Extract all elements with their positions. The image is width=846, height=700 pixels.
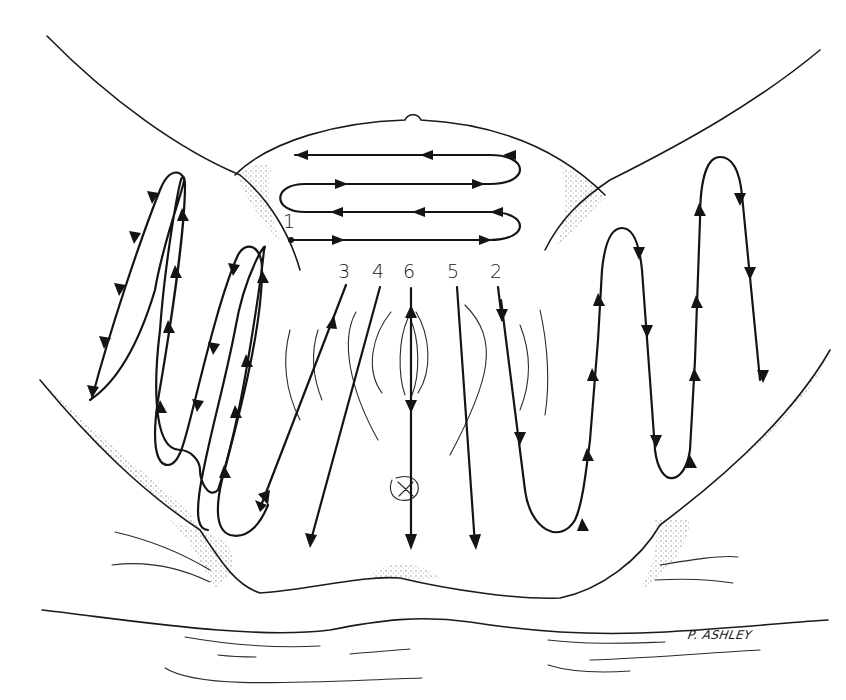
sheet-line-2 <box>185 637 320 647</box>
right-thigh-arrows <box>496 193 769 531</box>
label-2: 2 <box>490 262 502 281</box>
left-thigh-serpentine <box>90 177 265 530</box>
stroke-4-arrowhead <box>305 533 317 548</box>
labia-outer-left <box>372 312 391 393</box>
diagram-canvas <box>0 0 846 700</box>
labia-inner-left <box>400 318 408 395</box>
stroke-3-arrowhead <box>326 315 337 329</box>
label-4: 4 <box>372 262 384 281</box>
fold-line-right-2 <box>540 310 548 415</box>
left-buttock-outline <box>40 350 830 598</box>
label-6: 6 <box>403 262 415 281</box>
sheet-line-7 <box>590 650 760 660</box>
fold-line-right-1 <box>520 325 528 410</box>
mound-stipple-left <box>236 164 280 240</box>
artist-signature: P. ASHLEY <box>687 628 754 642</box>
left-fold-line-2 <box>112 564 210 582</box>
left-buttock-stipple <box>40 380 200 530</box>
label-3: 3 <box>338 262 350 281</box>
anus-mark <box>390 476 418 500</box>
sheet-line-4 <box>350 649 410 654</box>
start-point-1 <box>288 237 294 243</box>
sheet-line-8 <box>548 665 630 672</box>
right-fold-line-2 <box>655 579 733 583</box>
stroke-path-4 <box>311 287 380 540</box>
sheet-line-6 <box>548 640 665 643</box>
stroke-6-arrowhead <box>405 534 417 550</box>
stroke-5-arrowhead <box>469 534 481 550</box>
label-5: 5 <box>447 262 459 281</box>
sheet-line-5 <box>165 668 422 683</box>
stroke-path-1 <box>280 155 520 240</box>
stroke-6-mid-arrowhead-top <box>405 305 417 318</box>
mound-stipple-right <box>556 165 605 248</box>
right-buttock-stipple <box>660 350 830 525</box>
label-1: 1 <box>283 212 295 231</box>
left-thigh-arrows <box>87 191 269 512</box>
path-1-arrows <box>295 150 516 245</box>
stroke-6-mid-arrowhead-bottom <box>405 400 417 413</box>
sheet-line-3 <box>218 655 256 657</box>
left-thigh-outline <box>47 36 300 270</box>
left-thigh-serpentine-a <box>92 173 268 536</box>
stroke-path-5 <box>457 287 475 545</box>
right-thigh-outline <box>545 50 820 250</box>
fold-line-left-2 <box>286 330 300 420</box>
